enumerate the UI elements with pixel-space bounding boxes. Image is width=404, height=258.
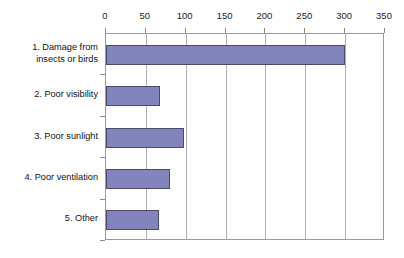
x-axis-tick-label: 250 — [296, 10, 312, 21]
y-axis-category-label: 1. Damage from insects or birds — [2, 42, 98, 65]
gridline — [305, 34, 306, 239]
x-axis-tick-mark — [384, 28, 385, 33]
y-axis-tick-mark — [100, 240, 105, 241]
bar — [106, 169, 170, 189]
x-axis-tick-label: 0 — [102, 10, 107, 21]
plot-area — [105, 33, 384, 240]
bar — [106, 45, 345, 65]
x-axis-tick-label: 150 — [217, 10, 233, 21]
gridline — [345, 34, 346, 239]
y-axis-category-label: 5. Other — [2, 213, 98, 225]
y-axis-category-label: 2. Poor visibility — [2, 89, 98, 101]
x-axis-tick-label: 100 — [177, 10, 193, 21]
y-axis-category-label: 3. Poor sunlight — [2, 131, 98, 143]
y-axis-category-label: 4. Poor ventilation — [2, 172, 98, 184]
bar-chart-figure: 050100150200250300350 1. Damage from ins… — [0, 0, 404, 258]
x-axis-tick-label: 50 — [140, 10, 151, 21]
bar — [106, 86, 160, 106]
gridline — [226, 34, 227, 239]
x-axis-tick-label: 200 — [256, 10, 272, 21]
x-axis-tick-label: 300 — [336, 10, 352, 21]
bar — [106, 210, 159, 230]
gridline — [186, 34, 187, 239]
x-axis-tick-label: 350 — [376, 10, 392, 21]
gridline — [265, 34, 266, 239]
bar — [106, 128, 184, 148]
